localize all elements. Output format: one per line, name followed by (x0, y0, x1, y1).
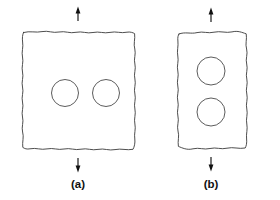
load-arrow-a-top-head (76, 7, 81, 14)
load-arrow-b-top (209, 8, 214, 23)
panel-caption-a: (a) (71, 178, 85, 190)
figure-container: (a) (b) (0, 0, 280, 200)
panel-b: (b) (177, 8, 247, 191)
hole-b-bottom (197, 98, 225, 126)
hole-a-left (52, 80, 79, 107)
load-arrow-b-top-head (209, 8, 214, 15)
load-arrow-b-bottom-head (209, 165, 214, 172)
hole-b-top (197, 57, 225, 85)
load-arrow-b-bottom (209, 157, 214, 172)
load-arrow-a-bottom (76, 158, 81, 173)
hole-a-right (93, 80, 120, 107)
load-arrow-a-bottom-head (76, 166, 81, 173)
plates-with-holes-diagram: (a) (b) (0, 0, 280, 200)
load-arrow-a-top (76, 7, 81, 22)
panel-caption-b: (b) (204, 178, 219, 190)
plate-outline-b (177, 31, 247, 149)
panel-a: (a) (22, 7, 135, 191)
